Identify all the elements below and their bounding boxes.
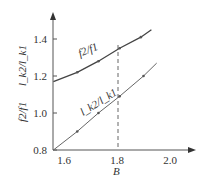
data-point bbox=[118, 95, 121, 98]
y-tick-label: 0.8 bbox=[33, 144, 47, 156]
data-point bbox=[118, 47, 121, 50]
series-label-upper: f2/f1 bbox=[76, 40, 99, 59]
y-axis-label-upper: l_k2/l_k1 bbox=[16, 45, 28, 86]
y-tick-label: 1.0 bbox=[33, 107, 47, 119]
data-point bbox=[97, 60, 100, 63]
x-axis-arrow-icon bbox=[188, 147, 196, 153]
data-point bbox=[76, 71, 79, 74]
y-tick-label: 1.2 bbox=[33, 70, 47, 82]
chart: 0.81.01.21.4 1.61.82.0 f2/f1 l_k2/l_k1 B… bbox=[0, 0, 212, 188]
series-line bbox=[53, 30, 151, 82]
y-axis-arrow-icon bbox=[50, 12, 56, 20]
x-tick-label: 1.6 bbox=[57, 154, 71, 166]
data-point bbox=[76, 130, 79, 133]
y-tick-label: 1.4 bbox=[33, 33, 47, 45]
data-point bbox=[140, 36, 143, 39]
y-axis-label-lower: f2/f1 bbox=[16, 102, 28, 122]
data-point bbox=[97, 112, 100, 115]
x-tick-label: 2.0 bbox=[163, 154, 177, 166]
x-axis-label: B bbox=[113, 165, 120, 177]
data-point bbox=[142, 75, 145, 78]
